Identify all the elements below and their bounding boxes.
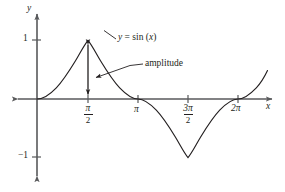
y-tick-label-neg-1: −1 <box>18 151 28 161</box>
x-axis-label: x <box>266 102 270 112</box>
x-tick-label-2pi: 2π <box>231 104 241 114</box>
amplitude-leader-arrow <box>96 64 143 78</box>
equation-function: sin ( <box>132 32 149 42</box>
three-pi-over-2-denominator: 2 <box>176 116 200 125</box>
three-pi-over-2-numerator: 3π <box>176 104 200 114</box>
plot-canvas <box>0 0 285 192</box>
curve-equation-label: y = sin (x) <box>118 33 156 43</box>
sine-wave-figure: y x 1 −1 π 2 π 3π 2 2π y = sin (x) ampli… <box>0 0 285 192</box>
pi-over-2-numerator: π <box>78 104 98 114</box>
x-tick-label-3pi-over-2: 3π 2 <box>176 104 200 125</box>
amplitude-label: amplitude <box>145 59 183 69</box>
x-tick-label-pi: π <box>134 105 139 115</box>
equation-equals: = <box>122 32 132 42</box>
pi-over-2-denominator: 2 <box>78 116 98 125</box>
equation-leader-line <box>104 31 116 40</box>
y-tick-label-1: 1 <box>23 34 28 44</box>
x-tick-label-pi-over-2: π 2 <box>78 104 98 125</box>
equation-close-paren: ) <box>153 32 156 42</box>
y-axis-label: y <box>27 4 31 14</box>
